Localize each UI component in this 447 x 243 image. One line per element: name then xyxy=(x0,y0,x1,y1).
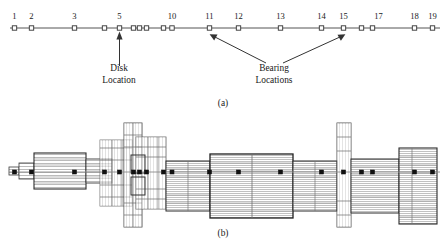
node-marker xyxy=(12,26,16,30)
panel-a-node-diagram: 1235101112131415171819 Disk Location Bea… xyxy=(0,0,447,115)
panel-b-rotor-assembly: (b) xyxy=(0,115,447,243)
rotor-node-marker xyxy=(413,170,417,174)
rotor-node-marker xyxy=(208,170,212,174)
node-marker xyxy=(430,26,434,30)
node-number-label: 2 xyxy=(29,11,33,21)
node-marker xyxy=(370,26,374,30)
node-number-group: 1235101112131415171819 xyxy=(12,11,436,21)
node-marker xyxy=(207,26,211,30)
node-number-label: 19 xyxy=(428,11,437,21)
rotor-node-marker xyxy=(138,170,142,174)
node-marker xyxy=(319,26,323,30)
rotor-node-marker xyxy=(360,170,364,174)
rotor-node-marker xyxy=(145,170,149,174)
node-marker xyxy=(102,26,106,30)
figure-root: 1235101112131415171819 Disk Location Bea… xyxy=(0,0,447,243)
disk-location-label-line1: Disk xyxy=(110,63,128,73)
rotor-node-marker xyxy=(73,170,77,174)
node-marker xyxy=(117,26,121,30)
node-marker xyxy=(278,26,282,30)
rotor-cross-section xyxy=(9,123,440,227)
node-number-label: 13 xyxy=(276,11,285,21)
node-number-label: 18 xyxy=(410,11,419,21)
disk-location-arrow xyxy=(116,32,122,67)
node-marker xyxy=(412,26,416,30)
rotor-node-marker xyxy=(431,170,435,174)
node-marker xyxy=(236,26,240,30)
node-number-label: 5 xyxy=(117,11,121,21)
rotor-node-marker xyxy=(132,170,136,174)
bearing-locations-label-line2: Locations xyxy=(256,75,293,85)
node-number-label: 17 xyxy=(374,11,383,21)
rotor-node-marker xyxy=(342,170,346,174)
rotor-node-marker xyxy=(320,170,324,174)
node-number-label: 11 xyxy=(205,11,213,21)
panel-b-caption: (b) xyxy=(218,228,229,239)
node-marker xyxy=(170,26,174,30)
node-number-label: 10 xyxy=(168,11,177,21)
rotor-node-marker xyxy=(279,170,283,174)
rotor-node-marker xyxy=(103,170,107,174)
node-marker xyxy=(359,26,363,30)
node-number-label: 12 xyxy=(234,11,243,21)
node-number-label: 3 xyxy=(72,11,76,21)
node-marker xyxy=(341,26,345,30)
node-number-label: 14 xyxy=(317,11,326,21)
node-marker xyxy=(29,26,33,30)
bearing-locations-label-line1: Bearing xyxy=(259,63,289,73)
node-marker xyxy=(144,26,148,30)
rotor-node-marker xyxy=(170,170,174,174)
node-number-label: 1 xyxy=(12,11,16,21)
panel-a-caption: (a) xyxy=(218,98,228,109)
node-marker xyxy=(72,26,76,30)
rotor-node-marker xyxy=(118,170,122,174)
rotor-node-marker xyxy=(30,170,34,174)
node-marker xyxy=(137,26,141,30)
rotor-node-marker xyxy=(162,170,166,174)
rotor-node-marker xyxy=(13,170,17,174)
rotor-node-marker xyxy=(237,170,241,174)
disk-location-label-line2: Location xyxy=(102,75,136,85)
bearing-locations-arrows xyxy=(210,34,346,63)
node-marker xyxy=(161,26,165,30)
node-number-label: 15 xyxy=(339,11,348,21)
rotor-node-marker xyxy=(371,170,375,174)
node-marker xyxy=(131,26,135,30)
